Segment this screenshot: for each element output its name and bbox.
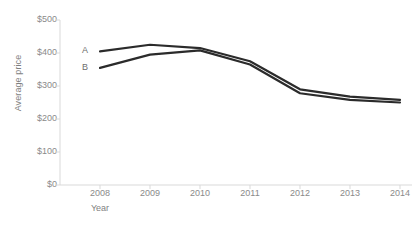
series-line-b xyxy=(100,50,400,102)
y-tick-marks xyxy=(56,20,60,185)
series-line-a xyxy=(100,45,400,100)
plot-area xyxy=(0,0,420,231)
x-tick-marks xyxy=(100,185,400,189)
series-lines xyxy=(100,45,400,103)
line-chart: Average price $0$100$200$300$400$500 200… xyxy=(0,0,420,231)
